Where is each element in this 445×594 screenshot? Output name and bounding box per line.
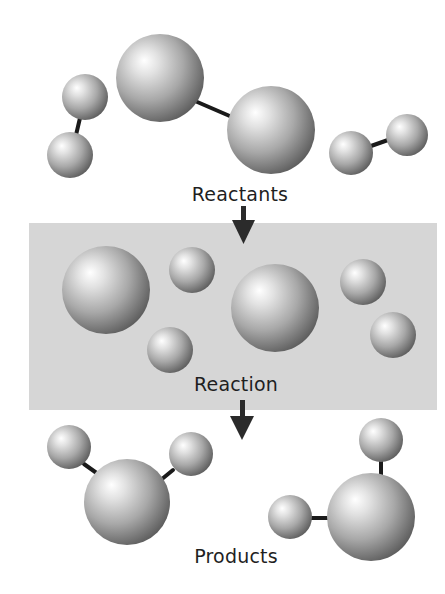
atom-large [231, 264, 319, 352]
atom-small [359, 418, 403, 462]
reactants-label: Reactants [192, 183, 288, 205]
atom-small [47, 425, 91, 469]
atom-large [62, 246, 150, 334]
product-molecules [47, 418, 415, 561]
atom-small [169, 247, 215, 293]
atom-small [147, 327, 193, 373]
atom-large [84, 459, 170, 545]
reaction-label: Reaction [194, 373, 278, 395]
atom-small [340, 259, 386, 305]
products-label: Products [194, 545, 278, 567]
atom-small [268, 495, 312, 539]
atom-small [370, 312, 416, 358]
atom-large [327, 473, 415, 561]
reaction-diagram [0, 0, 445, 594]
atom-large [116, 34, 204, 122]
atom-large [227, 86, 315, 174]
atom-small [386, 114, 428, 156]
atom-small [329, 131, 373, 175]
atom-small [47, 132, 93, 178]
reactant-molecules [47, 34, 428, 178]
atom-small [169, 432, 213, 476]
atom-small [62, 74, 108, 120]
